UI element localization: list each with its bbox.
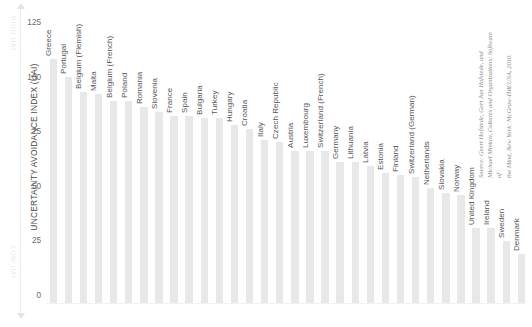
- bar[interactable]: [518, 254, 525, 304]
- bar-category-label: Slovakia: [437, 159, 446, 190]
- plot-area: 0255075100125 GreecePortugalBelgium (Fle…: [46, 20, 524, 304]
- y-tick-label: 0: [13, 291, 41, 300]
- bar-category-label: Switzerland (German): [407, 95, 416, 174]
- bar-category-label: Poland: [120, 73, 129, 98]
- bar[interactable]: [50, 59, 57, 304]
- bar-group[interactable]: Slovenia: [152, 20, 167, 304]
- bar[interactable]: [321, 151, 328, 304]
- bar-group[interactable]: Romania: [137, 20, 152, 304]
- bar[interactable]: [185, 116, 192, 304]
- bar-category-label: Bulgaria: [195, 86, 204, 116]
- bar-category-label: Romania: [135, 72, 144, 104]
- axis-arrow-spine: [20, 8, 21, 318]
- bar-category-label: United Kingdom: [467, 167, 476, 225]
- bar-group[interactable]: Germany: [333, 20, 348, 304]
- bar[interactable]: [367, 166, 374, 304]
- bar-category-label: Italy: [256, 122, 265, 137]
- bar[interactable]: [261, 140, 268, 304]
- y-tick-label: 100: [13, 72, 41, 81]
- uai-bar-chart: UNCERTAINTY AVOIDANCE INDEX (UAI) HIGH U…: [0, 0, 532, 327]
- bar[interactable]: [80, 92, 87, 304]
- bar[interactable]: [472, 228, 479, 304]
- bar[interactable]: [155, 112, 162, 304]
- bar-category-label: Croatia: [240, 100, 249, 126]
- source-line-1: Source: Geert Hofstede, Gert Jan Hofsted…: [476, 28, 504, 178]
- bar-group[interactable]: Spain: [182, 20, 197, 304]
- bar[interactable]: [457, 195, 464, 304]
- bar-category-label: Finland: [391, 146, 400, 173]
- bar-group[interactable]: Italy: [257, 20, 272, 304]
- bar[interactable]: [382, 173, 389, 304]
- bar[interactable]: [487, 228, 494, 304]
- bar[interactable]: [95, 94, 102, 304]
- bar-category-label: Switzerland (French): [316, 73, 325, 148]
- bar-group[interactable]: Austria: [288, 20, 303, 304]
- bar-group[interactable]: Bulgaria: [197, 20, 212, 304]
- bar-category-label: Portugal: [59, 44, 68, 74]
- bar-group[interactable]: Switzerland (French): [318, 20, 333, 304]
- bar[interactable]: [397, 175, 404, 304]
- bar[interactable]: [412, 177, 419, 304]
- bar-category-label: Netherlands: [422, 142, 431, 186]
- bar-category-label: Denmark: [512, 218, 521, 251]
- bar[interactable]: [306, 151, 313, 304]
- bar-category-label: Lithuania: [346, 126, 355, 159]
- bar[interactable]: [125, 101, 132, 304]
- bar-category-label: Germany: [331, 126, 340, 159]
- bar[interactable]: [65, 77, 72, 304]
- bar-group[interactable]: Luxembourg: [303, 20, 318, 304]
- bar-group[interactable]: Belgium (Flemish): [76, 20, 91, 304]
- bar-category-label: Sweden: [497, 208, 506, 237]
- bar-category-label: Belgium (Flemish): [74, 24, 83, 89]
- arrow-down-icon: [17, 313, 25, 319]
- bar[interactable]: [291, 151, 298, 304]
- bar-category-label: Luxembourg: [301, 103, 310, 148]
- bar[interactable]: [201, 118, 208, 304]
- source-line-2: the Mind, New York: McGraw-Hill/USA, 201…: [504, 28, 513, 178]
- bar-category-label: Greece: [44, 30, 53, 57]
- bar-group[interactable]: Hungary: [227, 20, 242, 304]
- bar-category-label: Latvia: [361, 142, 370, 164]
- bar-category-label: Slovenia: [150, 78, 159, 109]
- bar[interactable]: [170, 116, 177, 304]
- y-tick-label: 25: [13, 236, 41, 245]
- bar-category-label: Norway: [452, 164, 461, 191]
- bar-category-label: Turkey: [210, 91, 219, 115]
- bar-group[interactable]: Belgium (French): [106, 20, 121, 304]
- y-tick-label: 50: [13, 181, 41, 190]
- y-tick-label: 75: [13, 127, 41, 136]
- bar[interactable]: [352, 162, 359, 304]
- y-tick-label: 125: [13, 17, 41, 26]
- bar-category-label: Spain: [180, 92, 189, 113]
- bar[interactable]: [231, 125, 238, 304]
- bar[interactable]: [427, 188, 434, 304]
- bar[interactable]: [503, 241, 510, 304]
- bar-group[interactable]: Denmark: [514, 20, 529, 304]
- bar[interactable]: [140, 107, 147, 304]
- bar[interactable]: [276, 142, 283, 304]
- bar-group[interactable]: Poland: [122, 20, 137, 304]
- bar-category-label: Malta: [89, 71, 98, 91]
- bar-group[interactable]: Turkey: [212, 20, 227, 304]
- bar-group[interactable]: Slovakia: [439, 20, 454, 304]
- bar-category-label: Czech Republic: [271, 83, 280, 140]
- arrow-up-icon: [17, 3, 25, 9]
- bar-group[interactable]: Croatia: [242, 20, 257, 304]
- bar-category-label: Estonia: [376, 143, 385, 170]
- bar[interactable]: [110, 101, 117, 304]
- bar[interactable]: [336, 162, 343, 304]
- bar-category-label: Ireland: [482, 200, 491, 225]
- bar-category-label: France: [165, 88, 174, 113]
- bar-category-label: Belgium (French): [105, 36, 114, 98]
- source-note: Source: Geert Hofstede, Gert Jan Hofsted…: [476, 28, 513, 178]
- bar-group[interactable]: Czech Republic: [273, 20, 288, 304]
- bar[interactable]: [442, 193, 449, 304]
- bar-series: GreecePortugalBelgium (Flemish)MaltaBelg…: [46, 20, 524, 304]
- bar-group[interactable]: France: [167, 20, 182, 304]
- low-uai-annotation: LOW UAI: [10, 246, 17, 279]
- x-axis-baseline: [46, 303, 524, 304]
- bar[interactable]: [216, 118, 223, 304]
- bar[interactable]: [246, 129, 253, 304]
- bar-category-label: Austria: [286, 123, 295, 148]
- bar-group[interactable]: Norway: [454, 20, 469, 304]
